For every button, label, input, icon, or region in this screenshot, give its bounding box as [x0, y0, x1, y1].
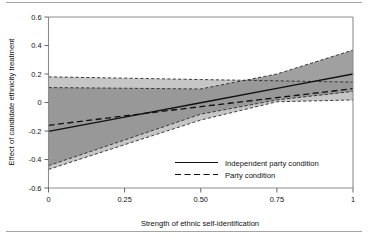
y-tick-label: -0.2 [29, 127, 42, 136]
x-tick-label: 1 [351, 195, 355, 204]
x-tick-label: 0.25 [117, 195, 131, 204]
x-axis-title: Strength of ethnic self-identification [141, 219, 259, 228]
y-tick-label: 0.6 [31, 13, 41, 22]
legend-label-independent-party-condition: Independent party condition [225, 159, 319, 168]
effect-of-candidate-ethnicity-chart: -0.6-0.4-0.200.20.40.6 00.250.500.751 Ef… [0, 0, 368, 251]
y-tick-label: 0.2 [31, 70, 41, 79]
y-tick-label: -0.6 [29, 184, 42, 193]
legend-label-party-condition: Party condition [225, 171, 275, 180]
y-tick-label: 0.4 [31, 41, 41, 50]
y-tick-label: -0.4 [29, 155, 42, 164]
chart-figure: -0.6-0.4-0.200.20.40.6 00.250.500.751 Ef… [0, 0, 368, 251]
x-tick-label: 0.75 [270, 195, 284, 204]
x-tick-label: 0 [46, 195, 50, 204]
y-tick-label: 0 [37, 98, 41, 107]
y-axis-title: Effect of candidate ethnicity treatment [7, 38, 16, 166]
x-tick-label: 0.50 [194, 195, 208, 204]
